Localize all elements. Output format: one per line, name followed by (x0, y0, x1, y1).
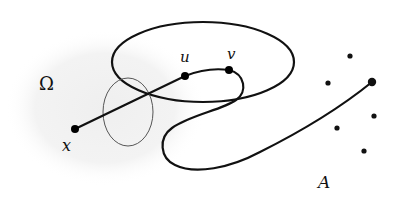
set-a-points (325, 53, 376, 153)
diagram-canvas: Ω x u v A (0, 0, 401, 204)
a-point (347, 53, 352, 58)
a-point (325, 80, 330, 85)
a-point (334, 125, 339, 130)
point-x (71, 125, 79, 133)
a-point (361, 148, 366, 153)
omega-region (5, 30, 205, 186)
point-u (181, 72, 189, 80)
a-point-endpoint (368, 78, 376, 86)
label-omega: Ω (39, 73, 54, 94)
label-u: u (180, 48, 190, 66)
point-v (225, 66, 233, 74)
label-A: A (316, 172, 330, 192)
label-x: x (62, 136, 71, 155)
label-v: v (227, 45, 236, 63)
a-point (371, 113, 376, 118)
